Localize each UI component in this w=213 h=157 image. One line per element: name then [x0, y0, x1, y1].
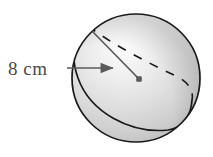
sphere-diagram-canvas: 8 cm — [0, 0, 213, 157]
sphere-figure: 8 cm — [0, 0, 213, 157]
sphere-body — [72, 14, 200, 142]
radius-label: 8 cm — [8, 58, 47, 79]
sphere-center-dot — [136, 76, 142, 82]
